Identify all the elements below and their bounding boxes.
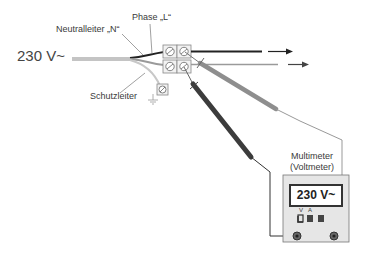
socket-a-label: A — [308, 207, 312, 213]
probe-dark — [184, 67, 294, 236]
terminal-block — [163, 45, 191, 73]
phase-arrow-icon — [286, 49, 293, 55]
protective-earth-label: Schutzleiter — [90, 91, 137, 101]
multimeter-title-line1: Multimeter — [286, 151, 338, 162]
a-selector-icon — [307, 215, 313, 222]
circuit-diagram — [0, 0, 375, 256]
socket-v-label: V — [299, 207, 303, 213]
neutral-arrow-icon — [302, 62, 309, 68]
voltage-label: 230 V~ — [17, 47, 65, 64]
multimeter-display: 230 V~ — [289, 184, 343, 207]
neutral-leader — [122, 34, 143, 55]
multimeter-title-line2: (Voltmeter) — [286, 162, 338, 173]
multimeter-title: Multimeter (Voltmeter) — [286, 151, 338, 173]
phase-leader — [150, 24, 152, 54]
neutral-label: Neutralleiter „N“ — [56, 24, 120, 34]
ground-icon — [148, 94, 158, 104]
phase-label: Phase „L“ — [132, 12, 171, 22]
range-selector-icon — [318, 215, 324, 222]
earth-leader — [120, 73, 145, 93]
phase-wire-in — [130, 52, 164, 58]
earth-terminal — [157, 84, 168, 95]
